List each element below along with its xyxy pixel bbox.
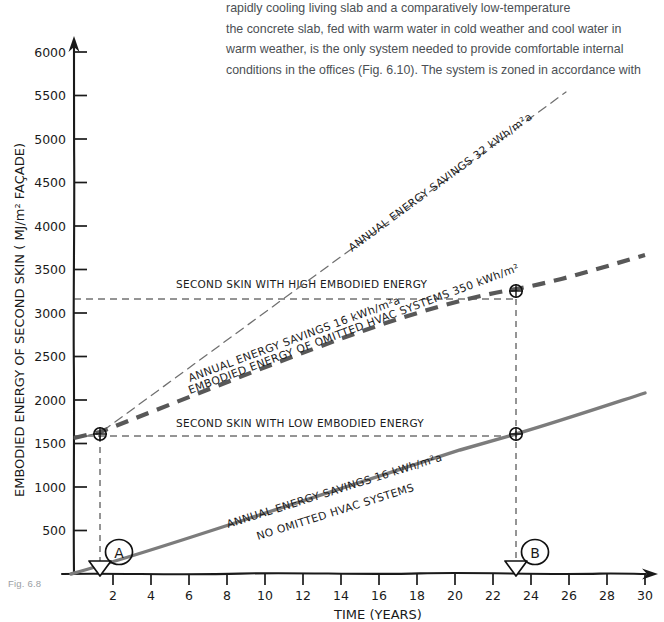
x-tick-label: 2 bbox=[109, 588, 117, 603]
y-tick-label: 6000 bbox=[34, 45, 66, 60]
y-tick-label: 1000 bbox=[34, 480, 66, 495]
x-tick-label: 12 bbox=[295, 588, 311, 603]
y-tick-label: 3500 bbox=[34, 262, 66, 277]
y-axis-ticks: 500 1000 1500 2000 2500 3000 3500 4000 4… bbox=[34, 45, 87, 539]
reference-line-low: SECOND SKIN WITH LOW EMBODIED ENERGY bbox=[74, 417, 516, 436]
y-tick-label: 5500 bbox=[34, 88, 66, 103]
x-axis-ticks: 2 4 6 8 10 12 14 16 18 20 22 24 26 28 30 bbox=[109, 574, 653, 603]
intersection-marker-b-low bbox=[509, 427, 523, 441]
y-axis bbox=[69, 36, 80, 574]
annotation-savings-16-hvac: ANNUAL ENERGY SAVINGS 16 kWh/m²a bbox=[186, 294, 402, 385]
x-tick-label: 22 bbox=[485, 588, 501, 603]
intersection-marker-b-high bbox=[509, 284, 523, 298]
x-tick-label: 16 bbox=[371, 588, 387, 603]
x-tick-label: 28 bbox=[599, 588, 615, 603]
x-axis-title: TIME (YEARS) bbox=[333, 607, 422, 622]
point-label-b: B bbox=[522, 540, 549, 565]
y-axis-title: EMBODIED ENERGY OF SECOND SKIN ( MJ/m² F… bbox=[12, 143, 27, 497]
chart-figure: .hw { font-family:"DejaVu Sans", sans-se… bbox=[0, 0, 664, 622]
x-tick-label: 30 bbox=[637, 588, 653, 603]
chart-svg: .hw { font-family:"DejaVu Sans", sans-se… bbox=[0, 0, 664, 622]
y-tick-label: 3000 bbox=[34, 306, 66, 321]
x-tick-label: 8 bbox=[223, 588, 231, 603]
y-tick-label: 2500 bbox=[34, 349, 66, 364]
x-tick-label: 14 bbox=[333, 588, 349, 603]
x-tick-label: 4 bbox=[147, 588, 155, 603]
x-tick-label: 10 bbox=[257, 588, 273, 603]
reference-line-low-label: SECOND SKIN WITH LOW EMBODIED ENERGY bbox=[176, 417, 424, 429]
point-label-a-text: A bbox=[114, 545, 124, 561]
y-tick-label: 4000 bbox=[34, 219, 66, 234]
intersection-marker-a bbox=[93, 427, 107, 441]
x-tick-label: 6 bbox=[185, 588, 193, 603]
point-label-b-text: B bbox=[530, 545, 540, 561]
x-tick-label: 26 bbox=[561, 588, 577, 603]
x-tick-label: 18 bbox=[409, 588, 425, 603]
reference-line-high-label: SECOND SKIN WITH HIGH EMBODIED ENERGY bbox=[176, 278, 428, 290]
y-tick-label: 4500 bbox=[34, 175, 66, 190]
y-tick-label: 1500 bbox=[34, 436, 66, 451]
y-tick-label: 2000 bbox=[34, 393, 66, 408]
x-tick-label: 24 bbox=[523, 588, 539, 603]
x-tick-label: 20 bbox=[447, 588, 463, 603]
annotation-savings-32: ANNUAL ENERGY SAVINGS 32 kWh/m²a bbox=[346, 110, 535, 254]
y-tick-label: 500 bbox=[42, 523, 66, 538]
y-tick-label: 5000 bbox=[34, 132, 66, 147]
